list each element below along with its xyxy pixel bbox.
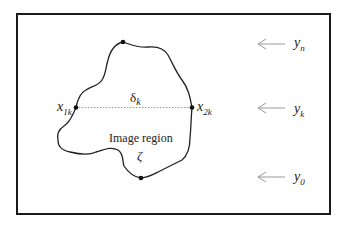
region-label: Image region [109, 132, 173, 144]
width-label: δk [130, 91, 141, 104]
arrow-left-icon [258, 172, 285, 182]
right-point [190, 105, 195, 110]
left-point [74, 105, 79, 110]
scan-line-label-n: yn [294, 36, 305, 50]
arrow-left-icon [258, 103, 285, 113]
top-point [121, 40, 126, 45]
bottom-point [139, 176, 144, 181]
right-point-label: x2k [197, 100, 212, 114]
arrow-left-icon [258, 39, 285, 49]
scan-line-label-k: yk [294, 102, 304, 116]
region-symbol: ζ [137, 149, 142, 162]
scan-line-label-0: y0 [294, 170, 305, 184]
region-contour [58, 42, 192, 178]
left-point-label: x1k [57, 100, 72, 114]
